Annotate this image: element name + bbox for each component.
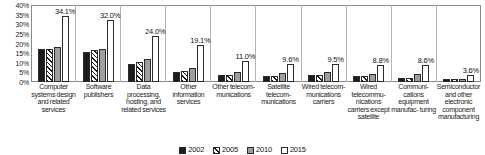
legend-swatch-icon [213,147,220,154]
bar-2015: 34.1% [62,16,69,82]
category-label: Other telecom- munications [211,82,256,128]
category-label: Software publishers [76,82,121,128]
legend-label: 2005 [222,146,238,154]
y-axis-tick: 15% [16,50,29,57]
bar-2015: 8.8% [377,65,384,82]
chart-legend: 2002200520102015 [0,146,485,154]
bar-group: 19.1% [166,5,211,82]
bar-data-label: 24.0% [145,28,165,36]
category-label: Computer systems design and related serv… [31,82,76,128]
bar-group: 8.6% [392,5,437,82]
bar-data-label: 11.0% [236,53,256,61]
legend-label: 2002 [188,146,204,154]
bar-data-label: 32.0% [100,12,120,20]
category-label: Wired telecom- munications carriers [301,82,346,128]
category-label: Satellite telecom- munications [256,82,301,128]
bar-data-label: 9.6% [282,56,298,64]
legend-item-2002[interactable]: 2002 [179,146,204,154]
bar-chart: 40%35%30%25%20%15%10%5%0% 34.1%32.0%24.0… [0,0,485,155]
bar-group: 11.0% [211,5,256,82]
category-label: Communi- cations equipment manufac- turi… [391,82,436,128]
bar-data-label: 8.6% [418,57,434,65]
bar-2002 [83,52,90,82]
legend-swatch-icon [247,147,254,154]
bar-2002 [173,72,180,82]
bar-2005 [136,62,143,82]
bar-data-label: 8.8% [373,57,389,65]
legend-swatch-icon [281,147,288,154]
bar-2010 [324,72,331,82]
y-axis-tick: 25% [16,30,29,37]
legend-item-2010[interactable]: 2010 [247,146,272,154]
bar-2010 [414,74,421,82]
bar-group: 32.0% [76,5,121,82]
legend-item-2015[interactable]: 2015 [281,146,306,154]
bar-2010 [279,73,286,82]
bar-data-label: 19.1% [190,37,210,45]
category-label: Other information services [166,82,211,128]
legend-label: 2015 [290,146,306,154]
bar-2010 [369,74,376,82]
bar-2015: 9.6% [287,64,294,82]
bar-2005 [226,75,233,82]
bar-data-label: 34.1% [55,8,75,16]
y-axis-tick: 10% [16,59,29,66]
bar-2002 [38,49,45,82]
bar-2002 [218,75,225,82]
bar-2015: 11.0% [242,61,249,82]
y-axis-tick: 30% [16,21,29,28]
y-axis: 40%35%30%25%20%15%10%5%0% [2,2,30,82]
bar-2015: 8.6% [422,65,429,82]
bar-2015: 19.1% [197,45,204,82]
y-axis-tick: 0% [19,79,29,86]
y-axis-tick: 40% [16,2,29,9]
bar-data-label: 9.5% [327,56,343,64]
bar-2005 [91,50,98,82]
legend-label: 2010 [256,146,272,154]
bar-group: 34.1% [31,5,76,82]
y-axis-tick: 5% [19,69,29,76]
bar-2010 [234,72,241,82]
bar-2015: 3.6% [467,75,474,82]
category-label: Data processing, hosting, and related se… [121,82,166,128]
bar-group: 3.6% [437,5,481,82]
plot-wrapper: 40%35%30%25%20%15%10%5%0% 34.1%32.0%24.0… [0,2,485,88]
bar-2005 [316,75,323,82]
bar-2010 [99,49,106,82]
bar-group: 8.8% [347,5,392,82]
category-axis-labels: Computer systems design and related serv… [31,82,481,128]
bar-2002 [128,64,135,82]
y-axis-tick: 20% [16,40,29,47]
bar-group: 24.0% [121,5,166,82]
bar-2010 [189,68,196,82]
bar-2015: 24.0% [152,36,159,82]
bar-2015: 9.5% [332,64,339,82]
bar-2010 [144,59,151,82]
bar-groups: 34.1%32.0%24.0%19.1%11.0%9.6%9.5%8.8%8.6… [31,5,481,82]
bar-2015: 32.0% [107,20,114,82]
legend-item-2005[interactable]: 2005 [213,146,238,154]
bar-group: 9.5% [302,5,347,82]
category-label: Semiconductor and other electronic compo… [436,82,481,128]
bar-data-label: 3.6% [463,67,479,75]
bar-2005 [181,71,188,82]
legend-swatch-icon [179,147,186,154]
category-label: Wired telecommu- nications carriers exce… [346,82,391,128]
bar-2010 [54,47,61,82]
bar-2005 [46,49,53,82]
y-axis-tick: 35% [16,11,29,18]
bar-group: 9.6% [256,5,301,82]
